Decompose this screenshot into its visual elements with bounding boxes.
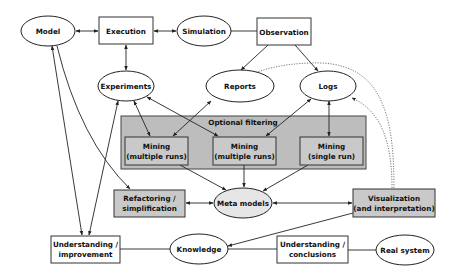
node-mining2-line1: Mining [231, 142, 258, 151]
node-logs-label: Logs [319, 82, 338, 91]
node-mining1-line1: Mining [143, 142, 170, 151]
edge-observation-logs [295, 45, 318, 71]
node-knowledge-label: Knowledge [177, 245, 222, 254]
node-meta-models-label: Meta models [217, 199, 269, 208]
node-real-system-label: Real system [380, 246, 429, 255]
node-understanding-conclusions[interactable]: Understanding / conclusions [277, 236, 348, 263]
node-understanding-improvement-line2: improvement [58, 250, 113, 259]
node-understanding-improvement-line1: Understanding / [53, 240, 119, 249]
node-real-system[interactable]: Real system [376, 235, 434, 265]
node-mining3-line1: Mining [318, 142, 345, 151]
node-refactoring-simplification[interactable]: Refactoring / simplification [114, 190, 185, 217]
node-experiments[interactable]: Experiments [98, 71, 154, 101]
node-refactoring-line2: simplification [122, 204, 177, 213]
node-experiments-label: Experiments [101, 82, 152, 91]
node-meta-models[interactable]: Meta models [214, 188, 272, 218]
node-reports-label: Reports [224, 82, 256, 91]
node-refactoring-line1: Refactoring / [123, 194, 176, 203]
workflow-diagram: Optional filtering [0, 0, 456, 278]
node-model-label: Model [36, 27, 61, 36]
edge-model-understanding-improvement [52, 46, 82, 235]
node-mining-multiple-runs-1[interactable]: Mining (multiple runs) [125, 137, 188, 165]
node-visualization-line1: Visualization [368, 194, 420, 203]
node-understanding-improvement[interactable]: Understanding / improvement [51, 236, 120, 263]
node-observation[interactable]: Observation [257, 18, 311, 45]
node-visualization[interactable]: Visualization (and interpretation) [353, 189, 435, 217]
node-mining-multiple-runs-2[interactable]: Mining (multiple runs) [213, 137, 276, 165]
node-simulation-label: Simulation [182, 27, 226, 36]
node-mining-single-run[interactable]: Mining (single run) [300, 137, 363, 165]
node-mining2-line2: (multiple runs) [214, 152, 275, 161]
node-logs[interactable]: Logs [300, 71, 356, 101]
node-reports[interactable]: Reports [206, 70, 274, 102]
node-visualization-line2: (and interpretation) [353, 204, 434, 213]
node-mining3-line2: (single run) [308, 152, 355, 161]
node-knowledge[interactable]: Knowledge [170, 234, 228, 264]
node-execution-label: Execution [106, 27, 146, 36]
edge-observation-reports [241, 45, 268, 70]
node-observation-label: Observation [259, 28, 308, 37]
node-model[interactable]: Model [21, 16, 75, 46]
edge-model-refactoring [57, 46, 130, 189]
node-understanding-conclusions-line2: conclusions [289, 250, 336, 259]
node-understanding-conclusions-line1: Understanding / [280, 240, 346, 249]
node-simulation[interactable]: Simulation [177, 16, 231, 46]
optional-filtering-label: Optional filtering [208, 118, 277, 127]
node-mining1-line2: (multiple runs) [126, 152, 187, 161]
node-execution[interactable]: Execution [99, 17, 153, 44]
